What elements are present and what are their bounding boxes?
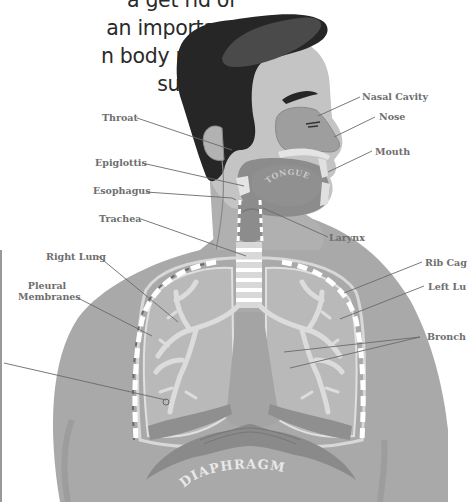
label-nose: Nose [379,111,405,122]
label-mouth: Mouth [375,146,410,157]
label-rib-cage: Rib Cag [425,257,467,268]
label-pleural-membranes: Pleural Membranes [18,280,76,302]
label-left-lung: Left Lu [428,281,466,292]
label-throat: Throat [102,112,138,123]
label-esophagus: Esophagus [93,185,151,196]
label-larynx: Larynx [329,232,365,243]
larynx [238,200,262,243]
label-pleural-line: Membranes [18,291,76,302]
label-right-lung: Right Lung [46,251,106,262]
label-pleural-line: Pleural [18,280,76,291]
label-trachea: Trachea [99,213,141,224]
label-nasal-cavity: Nasal Cavity [362,91,428,102]
label-epiglottis: Epiglottis [95,157,147,168]
label-bronchi: Bronch [427,331,466,342]
